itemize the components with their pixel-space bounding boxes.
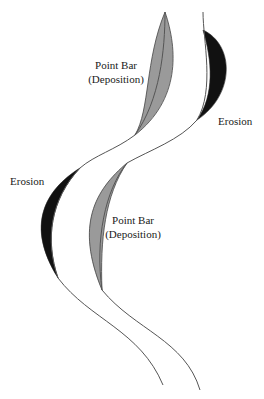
upper-erosion-label: Erosion <box>218 114 252 128</box>
lower-erosion-label: Erosion <box>10 174 44 188</box>
label-line: (Deposition) <box>80 72 152 86</box>
lower-point-bar-label: Point Bar (Deposition) <box>100 213 166 241</box>
upper-erosion-shape <box>197 30 226 120</box>
lower-erosion-shape <box>41 168 80 278</box>
upper-point-bar-label: Point Bar (Deposition) <box>80 58 152 86</box>
label-line: Point Bar <box>100 213 166 227</box>
label-line: Point Bar <box>80 58 152 72</box>
label-line: (Deposition) <box>100 227 166 241</box>
